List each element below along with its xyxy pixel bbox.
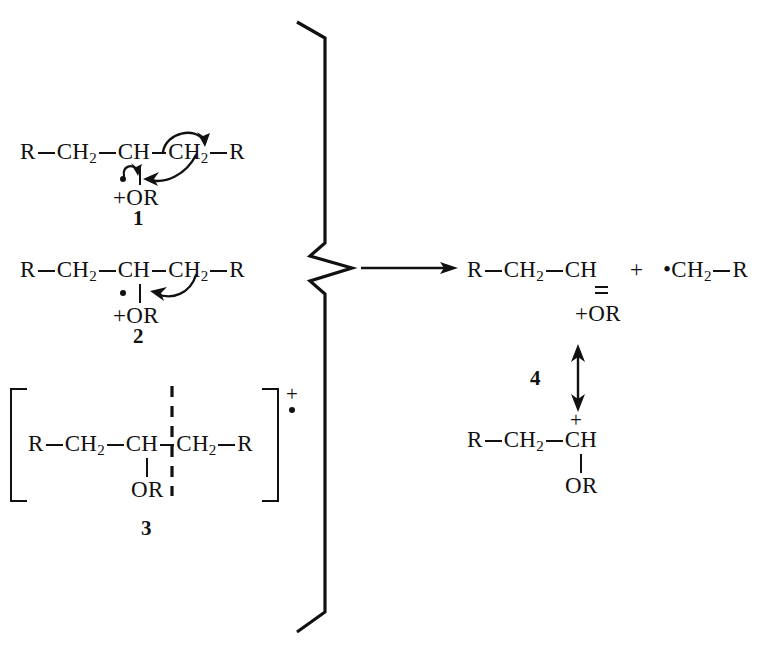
positive-charge: +: [113, 303, 126, 328]
atom-CH-center: CH: [126, 431, 159, 456]
subscript: 2: [97, 442, 105, 458]
product-plus-operator: +: [630, 258, 643, 281]
atom-CH2: CH: [671, 257, 704, 282]
grouping-brace: [297, 22, 352, 632]
atom-CH2-right: CH: [168, 139, 201, 164]
resonance-arrow: [571, 344, 585, 412]
atom-R-left: R: [20, 139, 36, 164]
structure-3-substituent: OR: [131, 478, 164, 501]
bond-cleaved: [152, 270, 166, 272]
bond: [210, 270, 227, 272]
structure-3-bracket-charge: +: [286, 384, 298, 405]
subscript: 2: [89, 150, 97, 166]
structure-3-vertical-bond: [146, 458, 148, 477]
bond: [38, 152, 55, 154]
atom-CH-center: CH: [118, 139, 151, 164]
bond: [218, 444, 235, 446]
structure-3-left-bracket: [10, 388, 27, 502]
radical-fragment: •CH2R: [663, 258, 748, 284]
subscript: 2: [201, 150, 209, 166]
atom-CH2-left: CH: [65, 431, 98, 456]
positive-charge: +: [575, 301, 588, 326]
atom-R-right: R: [229, 139, 245, 164]
bond: [546, 270, 563, 272]
atom-CH2-left: CH: [57, 257, 90, 282]
atom-CH: CH: [565, 257, 598, 282]
positive-charge: +: [113, 185, 126, 210]
reaction-scheme: RCH2CHCH2R +OR 1 RCH2CHCH2R +OR 2 + RCH2…: [0, 0, 764, 652]
subscript: 2: [201, 268, 209, 284]
atom-CH2-right: CH: [168, 257, 201, 282]
atom-R: R: [732, 257, 748, 282]
product-4-double-bond-lower: [595, 292, 608, 294]
bond: [99, 152, 116, 154]
subscript: 2: [704, 268, 712, 284]
subscript: 2: [209, 442, 217, 458]
bond: [485, 270, 502, 272]
structure-2-label: 2: [133, 324, 144, 349]
atom-R-left: R: [20, 257, 36, 282]
product-4b-substituent: OR: [565, 474, 598, 497]
subscript: 2: [89, 268, 97, 284]
structure-3-main-chain: RCH2CHCH2R: [28, 432, 253, 458]
atom-R-left: R: [28, 431, 44, 456]
resonance-label-4: 4: [530, 366, 541, 391]
subscript: 2: [536, 438, 544, 454]
bond-cleaved: [152, 152, 166, 154]
bond: [210, 152, 227, 154]
subscript: 2: [536, 268, 544, 284]
structure-1-vertical-bond: [139, 166, 141, 185]
structure-3-bracket-radical-dot: [289, 407, 295, 413]
atom-CH2: CH: [504, 257, 537, 282]
bond: [713, 270, 730, 272]
product-4b-vertical-bond: [580, 454, 582, 473]
structure-2-radical-dot: [120, 290, 126, 296]
structure-1-main-chain: RCH2CHCH2R: [20, 140, 245, 166]
bond: [107, 444, 124, 446]
product-4b-main-chain: RCH2CH: [467, 428, 597, 454]
bond: [38, 270, 55, 272]
bond-breaking: [160, 444, 174, 446]
atom-CH-center: CH: [118, 257, 151, 282]
structure-2-main-chain: RCH2CHCH2R: [20, 258, 245, 284]
structure-1-label: 1: [133, 206, 144, 231]
product-4-main-chain: RCH2CH: [467, 258, 597, 284]
group-OR: OR: [588, 301, 621, 326]
structure-3-label: 3: [141, 516, 152, 541]
structure-1-radical-dot: [120, 176, 126, 182]
atom-CH2-left: CH: [57, 139, 90, 164]
product-4-substituent: +OR: [575, 302, 621, 325]
atom-CH: CH: [565, 427, 598, 452]
bond: [485, 440, 502, 442]
atom-R-left: R: [467, 427, 483, 452]
atom-CH2: CH: [504, 427, 537, 452]
product-4-double-bond-upper: [595, 286, 608, 288]
atom-R-left: R: [467, 257, 483, 282]
atom-R-right: R: [237, 431, 253, 456]
atom-R-right: R: [229, 257, 245, 282]
atom-CH2-right: CH: [176, 431, 209, 456]
reaction-arrow: [361, 262, 458, 274]
bond: [546, 440, 563, 442]
bond: [46, 444, 63, 446]
structure-2-vertical-bond: [139, 284, 141, 303]
bond: [99, 270, 116, 272]
structure-3-right-bracket: [262, 388, 279, 502]
